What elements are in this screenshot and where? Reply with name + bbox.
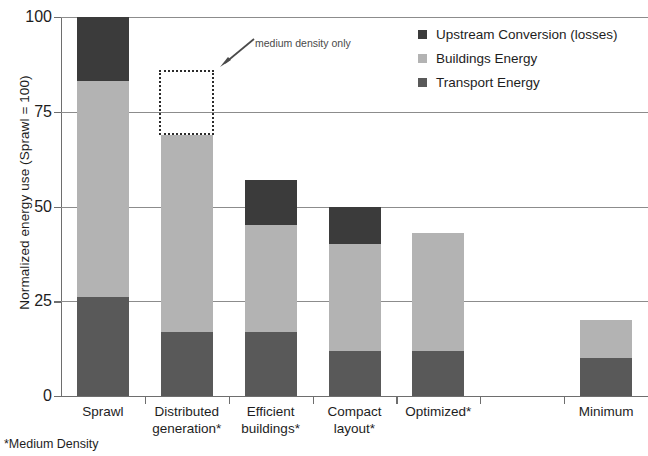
bar-segment-buildings-energy [329,244,381,350]
legend-swatch-icon [418,54,427,63]
y-axis-tick-mark [54,17,61,18]
gridline [61,17,648,18]
x-axis-label: Compactlayout* [313,404,397,437]
footnote: *Medium Density [4,437,98,451]
bar-segment-upstream-conversion-losses [329,207,381,245]
bar-compact-layout [329,207,381,397]
bar-optimized [412,233,464,396]
bar-segment-upstream-conversion-losses [77,17,129,81]
bar-segment-buildings-energy [412,233,464,350]
x-axis-label: Minimum [564,404,648,421]
y-axis-tick-mark [54,112,61,113]
bar-segment-buildings-energy [161,135,213,332]
x-axis-label-line: Compact [313,404,397,421]
x-axis-label-line: buildings* [229,421,313,438]
y-axis-tick-label: 75 [0,103,52,121]
y-axis-tick-label: 50 [0,198,52,216]
legend-label: Transport Energy [436,75,540,90]
gridline [61,112,648,113]
x-axis-label-line: generation* [145,421,229,438]
legend-swatch-icon [418,78,427,87]
bar-segment-transport-energy [580,358,632,396]
x-axis-tick-mark [480,397,481,404]
x-axis-label: Efficientbuildings* [229,404,313,437]
x-axis-label: Sprawl [61,404,145,421]
bar-segment-transport-energy [161,332,213,396]
y-axis-tick-label: 0 [0,387,52,405]
y-axis-tick-labels: 0255075100 [0,0,52,456]
x-axis-label-line: Minimum [564,404,648,421]
legend-item: Buildings Energy [418,46,618,70]
legend: Upstream Conversion (losses)Buildings En… [418,22,618,94]
x-axis-label: Distributedgeneration* [145,404,229,437]
bar-distributed-generation [161,135,213,397]
bar-segment-transport-energy [245,332,297,396]
legend-swatch-icon [418,30,427,39]
bar-efficient-buildings [245,180,297,396]
y-axis-tick-mark [54,301,61,302]
x-axis-tick-mark [396,397,397,404]
x-axis-tick-mark [313,397,314,404]
y-axis-tick-label: 25 [0,292,52,310]
x-axis-tick-mark [564,397,565,404]
x-axis-label-line: Sprawl [61,404,145,421]
legend-item: Upstream Conversion (losses) [418,22,618,46]
x-axis-label-line: Distributed [145,404,229,421]
legend-item: Transport Energy [418,70,618,94]
bar-sprawl [77,17,129,396]
legend-label: Upstream Conversion (losses) [436,27,618,42]
bar-segment-transport-energy [77,297,129,396]
x-axis-label-line: Optimized* [396,404,480,421]
y-axis-tick-label: 100 [0,8,52,26]
bar-minimum [580,320,632,396]
annotation-arrow-icon [212,36,256,70]
bar-segment-transport-energy [329,351,381,396]
y-axis-tick-mark [54,396,61,397]
bar-segment-buildings-energy [245,225,297,331]
x-axis-label-line: layout* [313,421,397,438]
x-axis-label-line: Efficient [229,404,313,421]
bar-segment-buildings-energy [77,81,129,297]
y-axis-tick-mark [54,207,61,208]
annotation-label: medium density only [255,37,351,49]
x-axis-tick-mark [229,397,230,404]
legend-label: Buildings Energy [436,51,537,66]
bar-segment-upstream-conversion-losses [245,180,297,225]
ghost-outline-box [159,70,214,134]
x-axis-label: Optimized* [396,404,480,421]
bar-segment-buildings-energy [580,320,632,358]
bar-segment-transport-energy [412,351,464,396]
chart-container: Normalized energy use (Sprawl = 100) 025… [0,0,648,456]
x-axis-tick-mark [145,397,146,404]
